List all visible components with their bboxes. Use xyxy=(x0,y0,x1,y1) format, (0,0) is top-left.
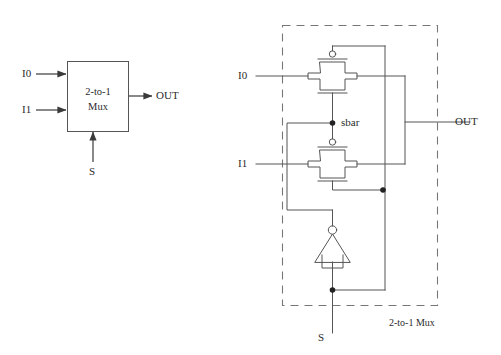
tg-i1-input-label: I1 xyxy=(238,158,247,169)
tg-i1-body xyxy=(308,150,357,178)
mux-boundary-label: 2-to-1 Mux xyxy=(389,318,435,328)
tg-i1-nmos-gate-route xyxy=(333,181,384,190)
tg-i0-pmos-bubble-icon xyxy=(329,51,335,57)
transistor-out-label: OUT xyxy=(455,116,478,127)
tg-i1-pmos-bubble-icon xyxy=(329,139,335,145)
tg-i0-body xyxy=(308,62,357,90)
transistor-s-label: S xyxy=(318,332,324,343)
tg-i0-input-label: I0 xyxy=(238,70,247,81)
inverter-bubble-icon xyxy=(328,226,336,234)
figure-canvas: I0 I1 OUT S 2-to-1 Mux xyxy=(0,0,501,355)
inverter-triangle-body xyxy=(315,234,350,262)
sbar-node-label: sbar xyxy=(341,117,359,128)
transistor-view-graphics xyxy=(0,0,501,355)
s-node-junction-dot xyxy=(330,287,336,293)
sbar-junction-dot xyxy=(330,120,336,126)
s-bus-junction-dot-upper xyxy=(380,187,386,193)
mux-boundary-dashed-box xyxy=(283,26,438,306)
